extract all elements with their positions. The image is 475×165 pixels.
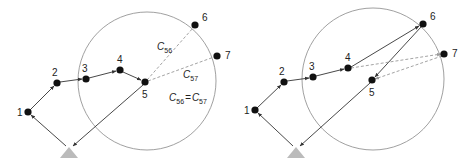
node-label-1: 1	[17, 107, 23, 118]
node-2	[53, 79, 60, 86]
node-label-3: 3	[82, 63, 88, 74]
node-7	[440, 50, 447, 57]
node-7	[213, 52, 220, 59]
left-panel: 1 2 3 4 5 6 7 C56 C57 C56=C57	[17, 12, 231, 158]
node-label-3: 3	[309, 61, 315, 72]
node-label-6: 6	[202, 12, 208, 23]
node-label-7: 7	[225, 50, 231, 61]
node-label-5: 5	[369, 87, 375, 98]
cost-c56: C56	[157, 41, 172, 54]
depot-triangle	[60, 147, 78, 158]
node-6	[191, 21, 198, 28]
node-5	[141, 78, 148, 85]
candidate-edges	[351, 54, 442, 79]
node-label-1: 1	[244, 105, 250, 116]
cost-c57: C57	[183, 69, 198, 82]
node-1	[251, 106, 258, 113]
node-4	[344, 64, 351, 71]
node-4	[116, 66, 123, 73]
cost-labels: C56 C57 C56=C57	[157, 41, 207, 105]
node-label-5: 5	[142, 89, 148, 100]
node-6	[419, 20, 426, 27]
cost-equation: C56=C57	[169, 92, 207, 105]
route-edges	[257, 26, 421, 146]
right-panel: 1 2 3 4 5 6 7	[244, 8, 458, 158]
node-label-4: 4	[117, 54, 123, 65]
node-1	[24, 108, 31, 115]
node-label-2: 2	[279, 66, 285, 77]
node-label-6: 6	[430, 11, 436, 22]
node-2	[280, 78, 287, 85]
node-3	[309, 73, 316, 80]
depot-triangle	[287, 147, 305, 158]
node-label-7: 7	[452, 48, 458, 59]
node-label-2: 2	[52, 67, 58, 78]
node-label-4: 4	[345, 52, 351, 63]
node-3	[82, 75, 89, 82]
candidate-edges	[147, 28, 214, 81]
node-5	[368, 76, 375, 83]
vehicle-routing-diagram: 1 2 3 4 5 6 7 C56 C57 C56=C57	[0, 0, 475, 165]
